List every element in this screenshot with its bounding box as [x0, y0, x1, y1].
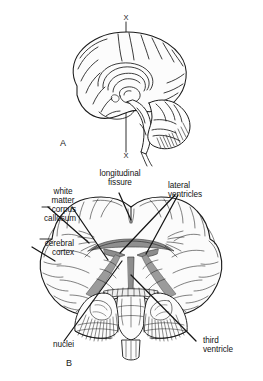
label-third-ventricle: third ventricle [203, 336, 259, 355]
label-lateral-ventricles: lateral ventricles [168, 181, 228, 200]
panel-a-letter: A [60, 138, 66, 148]
label-corpus-callosum: corpus callosum [0, 205, 76, 224]
panel-a-sagittal-drawing: X X [0, 0, 263, 170]
panel-b-letter: B [66, 358, 72, 368]
figure-brain-anatomy: X X A [0, 0, 263, 381]
label-white-matter: white matter [38, 187, 88, 206]
plane-marker-bottom: X [123, 151, 128, 160]
plane-marker-top: X [123, 13, 128, 22]
third-ventricle [128, 257, 134, 291]
label-nuclei: nuclei [24, 340, 74, 349]
label-cerebral-cortex: cerebral cortex [0, 239, 74, 258]
label-longitudinal-fissure: longitudinal fissure [88, 169, 152, 188]
